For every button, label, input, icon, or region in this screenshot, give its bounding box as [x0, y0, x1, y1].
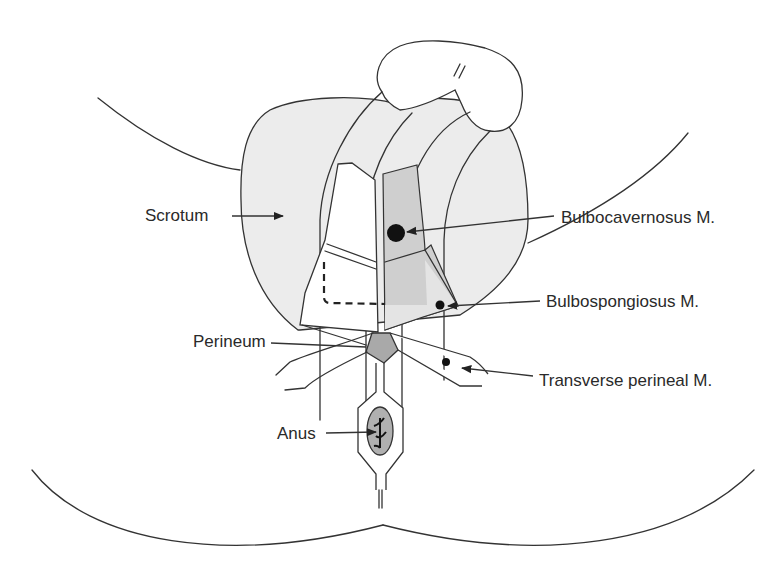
perineum-diagram: [0, 0, 773, 561]
perineum-leader: [271, 343, 366, 347]
perineum-left-upper: [276, 333, 373, 375]
label-transverse-perineal: Transverse perineal M.: [539, 372, 712, 389]
right-buttock-outline: [383, 470, 754, 545]
perineum-left-lower: [285, 352, 367, 390]
label-bulbospongiosus: Bulbospongiosus M.: [546, 293, 699, 310]
transverse-perineal-region: [390, 333, 488, 386]
transverse-perineal-leader: [462, 368, 533, 376]
label-bulbocavernosus: Bulbocavernosus M.: [561, 209, 715, 226]
bulbocavernosus-marker: [387, 224, 405, 242]
label-perineum: Perineum: [193, 333, 266, 350]
transverse-perineal-marker: [442, 358, 450, 366]
label-anus: Anus: [277, 425, 316, 442]
anal-cleft: [379, 490, 382, 508]
label-scrotum: Scrotum: [145, 207, 208, 224]
left-buttock-outline: [32, 470, 383, 545]
bulbospongiosus-marker: [436, 301, 445, 310]
perineum-body: [366, 333, 398, 363]
left-thigh-outline: [98, 98, 240, 170]
